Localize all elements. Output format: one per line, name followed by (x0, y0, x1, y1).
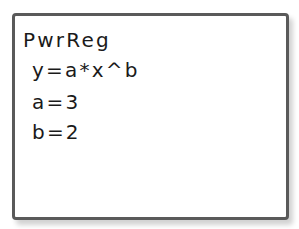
regression-title: PwrReg (23, 29, 111, 51)
coefficient-b: b=2 (32, 121, 81, 143)
regression-equation: y=a*x^b (32, 59, 140, 81)
calculator-screen: PwrReg y=a*x^b a=3 b=2 (12, 13, 289, 220)
coefficient-a: a=3 (32, 91, 80, 113)
